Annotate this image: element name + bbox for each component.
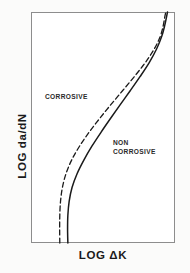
annotation-corrosive: CORROSIVE <box>45 93 88 102</box>
x-axis-title: LOG ΔK <box>31 249 175 261</box>
y-axis-title: LOG da/dN <box>16 81 28 211</box>
fatigue-crack-growth-chart: LOG da/dN LOG ΔK CORROSIVE NON CORROSIVE <box>0 0 190 273</box>
plot-frame <box>31 12 175 243</box>
annotation-non-corrosive: NON CORROSIVE <box>113 139 156 157</box>
